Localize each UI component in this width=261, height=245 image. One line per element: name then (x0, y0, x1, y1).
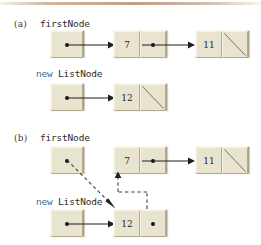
panel-a-new-listnode-label: new ListNode (36, 68, 102, 79)
panel-b-arrow-newnode-to-node12 (66, 220, 116, 228)
panel-b-new-keyword: new (36, 196, 53, 207)
panel-a-node-11: 11 (195, 30, 249, 57)
panel-b-firstnode-label: firstNode (40, 132, 90, 143)
panel-a-new-type: ListNode (58, 68, 102, 79)
panel-a-label: (a) (14, 19, 27, 29)
panel-b-arrow-node7-to-node11 (142, 157, 196, 165)
panel-b-node-11-data-cell: 11 (196, 147, 222, 174)
panel-b-dashed-node12-to-node7 (110, 171, 164, 211)
panel-a-node-11-data-cell: 11 (196, 31, 222, 58)
panel-b-new-listnode-label: new ListNode (36, 196, 102, 207)
panel-b-node-12-data-cell: 12 (114, 210, 140, 237)
panel-b-node-12-pointer-cell (140, 210, 166, 237)
panel-a-node-7-data-cell: 7 (114, 31, 140, 58)
null-pointer-slash-icon (223, 148, 247, 173)
panel-a-arrow-node7-to-node11 (142, 41, 196, 49)
top-rule-decoration (0, 2, 261, 5)
panel-a-firstnode-label: firstNode (40, 18, 90, 29)
panel-b-node-11-null-cell (222, 147, 248, 174)
null-pointer-slash-icon (223, 32, 247, 57)
panel-a-node-11-null-cell (222, 31, 248, 58)
panel-a-new-keyword: new (36, 68, 53, 79)
panel-a-arrow-firstnode-to-node7 (66, 41, 116, 49)
pointer-dot-icon (151, 222, 155, 226)
panel-a-arrow-newnode-to-node12 (66, 94, 116, 102)
null-pointer-slash-icon (141, 85, 165, 110)
figure-canvas: (a) firstNode 7 11 (0, 0, 261, 245)
panel-b-node-7-data-cell: 7 (114, 147, 140, 174)
panel-a-node-12-data-cell: 12 (114, 84, 140, 111)
panel-b-node-11: 11 (195, 146, 249, 173)
panel-b-new-type: ListNode (58, 196, 102, 207)
panel-b-node-12: 12 (113, 209, 167, 236)
panel-a-node-12-null-cell (140, 84, 166, 111)
panel-a-node-12: 12 (113, 83, 167, 110)
panel-b-label: (b) (14, 133, 27, 143)
